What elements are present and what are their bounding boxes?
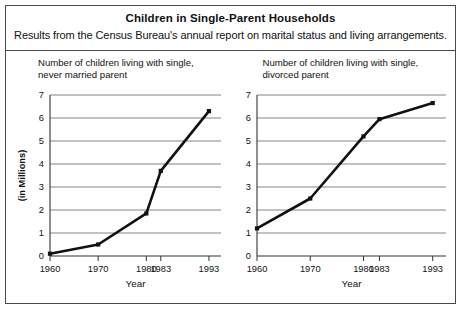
- y-axis-title: (in Millions): [17, 150, 27, 202]
- data-point-marker: [377, 117, 381, 121]
- data-series-line: [50, 111, 209, 254]
- x-tick-label: 1970: [88, 264, 109, 274]
- y-tick-label: 7: [39, 90, 44, 100]
- data-point-marker: [159, 169, 163, 173]
- chart-panel-never-married: Number of children living with single, n…: [6, 51, 231, 304]
- data-point-marker: [96, 242, 100, 246]
- x-tick-label: 1960: [246, 264, 267, 274]
- y-tick-label: 7: [245, 90, 250, 100]
- y-tick-label: 6: [245, 113, 250, 123]
- chart-frame: Children in Single-Parent Households Res…: [5, 5, 456, 304]
- data-point-marker: [430, 101, 434, 105]
- chart-plot-divorced: 0123456719601970198019831993Year: [231, 51, 456, 304]
- charts-container: Number of children living with single, n…: [6, 51, 455, 304]
- chart-page: Children in Single-Parent Households Res…: [0, 0, 461, 309]
- line-chart-divorced: 0123456719601970198019831993Year: [231, 51, 456, 304]
- x-tick-label: 1983: [369, 264, 390, 274]
- header: Children in Single-Parent Households Res…: [6, 6, 455, 41]
- y-tick-label: 3: [245, 182, 250, 192]
- y-tick-label: 1: [39, 228, 44, 238]
- y-tick-label: 5: [245, 136, 250, 146]
- data-point-marker: [48, 252, 52, 256]
- y-tick-label: 0: [245, 251, 250, 261]
- data-point-marker: [308, 196, 312, 200]
- x-tick-label: 1993: [422, 264, 443, 274]
- y-tick-label: 4: [245, 159, 250, 169]
- y-tick-label: 2: [39, 205, 44, 215]
- line-chart-never-married: 0123456719601970198019831993Year(in Mill…: [6, 51, 231, 304]
- x-tick-label: 1960: [40, 264, 61, 274]
- x-axis-title: Year: [341, 278, 362, 289]
- x-axis-title: Year: [126, 278, 147, 289]
- x-tick-label: 1983: [150, 264, 171, 274]
- chart-plot-never-married: 0123456719601970198019831993Year(in Mill…: [6, 51, 231, 304]
- y-tick-label: 5: [39, 136, 44, 146]
- y-tick-label: 2: [245, 205, 250, 215]
- y-tick-label: 4: [39, 159, 44, 169]
- x-tick-label: 1970: [299, 264, 320, 274]
- y-tick-label: 1: [245, 228, 250, 238]
- page-subtitle: Results from the Census Bureau's annual …: [6, 24, 455, 41]
- y-tick-label: 0: [39, 251, 44, 261]
- data-point-marker: [361, 134, 365, 138]
- chart-panel-divorced: Number of children living with single, d…: [231, 51, 456, 304]
- data-point-marker: [207, 109, 211, 113]
- x-tick-label: 1993: [199, 264, 220, 274]
- data-point-marker: [144, 211, 148, 215]
- y-tick-label: 6: [39, 113, 44, 123]
- data-point-marker: [254, 226, 258, 230]
- page-title: Children in Single-Parent Households: [6, 6, 455, 24]
- y-tick-label: 3: [39, 182, 44, 192]
